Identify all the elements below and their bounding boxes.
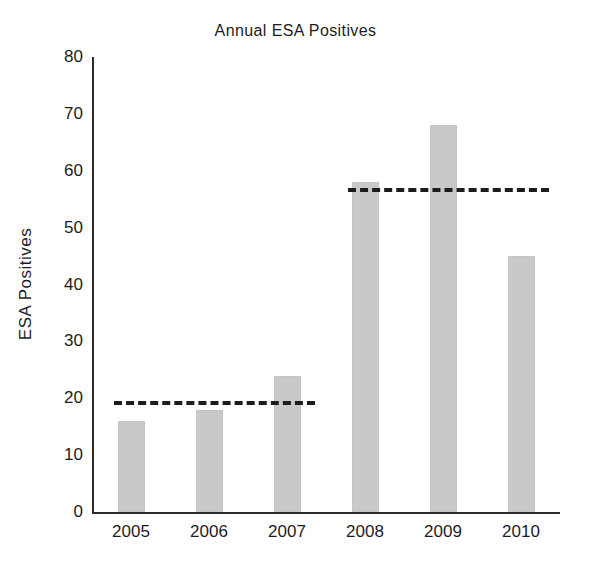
x-axis-tick-label: 2008 <box>346 522 384 542</box>
y-axis-tick-label: 70 <box>64 104 83 124</box>
y-axis-line <box>92 57 94 512</box>
x-axis-tick-label: 2005 <box>112 522 150 542</box>
chart-figure: Annual ESA Positives ESA Positives 01020… <box>0 0 591 573</box>
y-axis-title: ESA Positives <box>16 184 36 384</box>
x-axis-tick-label: 2010 <box>502 522 540 542</box>
reference-line <box>348 188 549 192</box>
x-axis-line <box>92 512 560 514</box>
y-axis-tick-label: 50 <box>64 218 83 238</box>
bar <box>508 256 535 512</box>
y-axis-tick-label: 20 <box>64 388 83 408</box>
bar <box>352 182 379 512</box>
reference-line <box>114 401 315 405</box>
bar <box>430 125 457 512</box>
bar <box>196 410 223 512</box>
y-axis-tick-label: 0 <box>74 502 83 522</box>
y-axis-tick-label: 30 <box>64 331 83 351</box>
x-axis-tick-label: 2007 <box>268 522 306 542</box>
bar <box>118 421 145 512</box>
chart-title: Annual ESA Positives <box>0 22 591 40</box>
y-axis-tick-label: 40 <box>64 275 83 295</box>
y-axis-tick-label: 80 <box>64 47 83 67</box>
y-axis-tick-label: 10 <box>64 445 83 465</box>
x-axis-tick-label: 2009 <box>424 522 462 542</box>
x-axis-tick-label: 2006 <box>190 522 228 542</box>
plot-area: 01020304050607080 2005200620072008200920… <box>92 57 560 512</box>
y-axis-tick-label: 60 <box>64 161 83 181</box>
bar <box>274 376 301 513</box>
